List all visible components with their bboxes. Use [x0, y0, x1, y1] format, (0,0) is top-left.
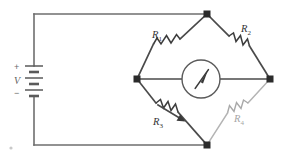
wire-r1-upper [180, 14, 207, 39]
wire-r4-upper [248, 79, 270, 103]
scan-speck [9, 146, 12, 149]
bridge-node-left [134, 76, 141, 83]
label-r3: R3 [152, 116, 163, 130]
wire-r3-lower [178, 112, 207, 145]
label-r2: R2 [240, 23, 251, 37]
battery-positive-sign: + [14, 62, 19, 72]
resistor-r2-zigzag [229, 33, 250, 46]
wire-r2-lower [250, 46, 271, 79]
label-r1-subscript: 1 [158, 35, 162, 43]
label-r4: R4 [233, 113, 244, 127]
bridge-node-right [267, 76, 274, 83]
battery-negative-sign: − [14, 88, 19, 98]
label-r4-subscript: 4 [240, 119, 244, 127]
variable-resistor-arrow-r3 [158, 105, 186, 122]
bridge-node-bottom [204, 142, 211, 149]
circuit-schematic: + V − [0, 0, 285, 159]
bridge-node-top [204, 11, 211, 18]
wheatstone-bridge-figure: + V − [0, 0, 285, 159]
label-r3-subscript: 3 [159, 122, 163, 130]
wire-r1-lower [137, 44, 154, 79]
galvanometer-branch [137, 60, 270, 98]
wire-r4-lower [207, 113, 228, 145]
wire-r3-upper [137, 79, 156, 103]
battery-symbol [25, 66, 43, 96]
label-r1: R1 [151, 29, 162, 43]
battery-voltage-label: V [14, 75, 22, 86]
label-r2-subscript: 2 [247, 29, 251, 37]
resistor-r4-zigzag [228, 100, 249, 113]
